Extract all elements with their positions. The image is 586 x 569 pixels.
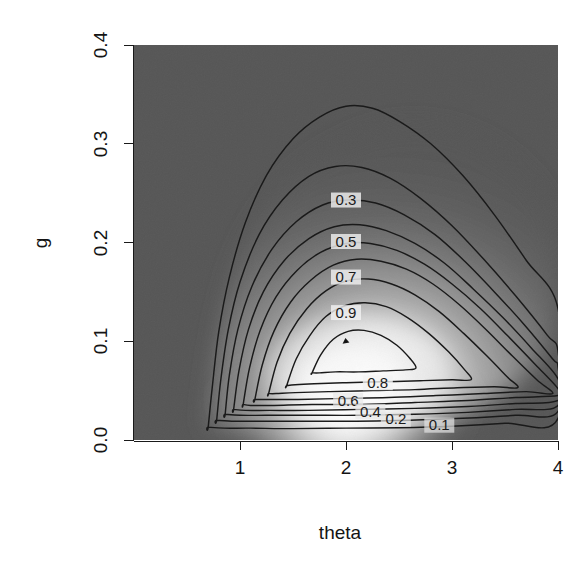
x-axis-tick-label: 3 bbox=[447, 458, 458, 477]
y-axis-tick-label: 0.2 bbox=[91, 229, 110, 255]
y-axis-tick-label: 0.3 bbox=[91, 131, 110, 157]
y-axis-tick bbox=[124, 341, 133, 342]
contour-label: 0.7 bbox=[336, 268, 357, 285]
contour-label: 0.2 bbox=[385, 410, 406, 427]
y-axis-tick-label: 0.4 bbox=[91, 32, 110, 58]
y-axis-title: g bbox=[31, 238, 50, 249]
x-axis-tick-label: 4 bbox=[553, 458, 564, 477]
y-axis-tick bbox=[124, 242, 133, 243]
x-axis-tick bbox=[558, 441, 559, 450]
plot-panel: 0.30.50.70.90.80.60.40.20.1 bbox=[134, 45, 558, 440]
x-axis-tick bbox=[346, 441, 347, 450]
contour-label: 0.4 bbox=[360, 403, 381, 420]
x-axis-title: theta bbox=[319, 523, 361, 542]
contour-label: 0.8 bbox=[367, 374, 388, 391]
x-axis-tick-label: 1 bbox=[235, 458, 246, 477]
y-axis-tick-label: 0.0 bbox=[91, 427, 110, 453]
contour-label: 0.5 bbox=[336, 233, 357, 250]
y-axis-line bbox=[133, 45, 134, 441]
contour-label: 0.9 bbox=[336, 304, 357, 321]
contour-label: 0.3 bbox=[336, 191, 357, 208]
x-axis-tick bbox=[240, 441, 241, 450]
contour-label: 0.1 bbox=[429, 416, 450, 433]
x-axis-tick-label: 2 bbox=[341, 458, 352, 477]
figure-root: 0.30.50.70.90.80.60.40.20.1 1234 0.00.10… bbox=[0, 0, 586, 569]
x-axis-tick bbox=[452, 441, 453, 450]
y-axis-tick bbox=[124, 45, 133, 46]
contour-svg: 0.30.50.70.90.80.60.40.20.1 bbox=[134, 45, 558, 440]
y-axis-tick bbox=[124, 440, 133, 441]
y-axis-tick-label: 0.1 bbox=[91, 328, 110, 354]
y-axis-tick bbox=[124, 143, 133, 144]
